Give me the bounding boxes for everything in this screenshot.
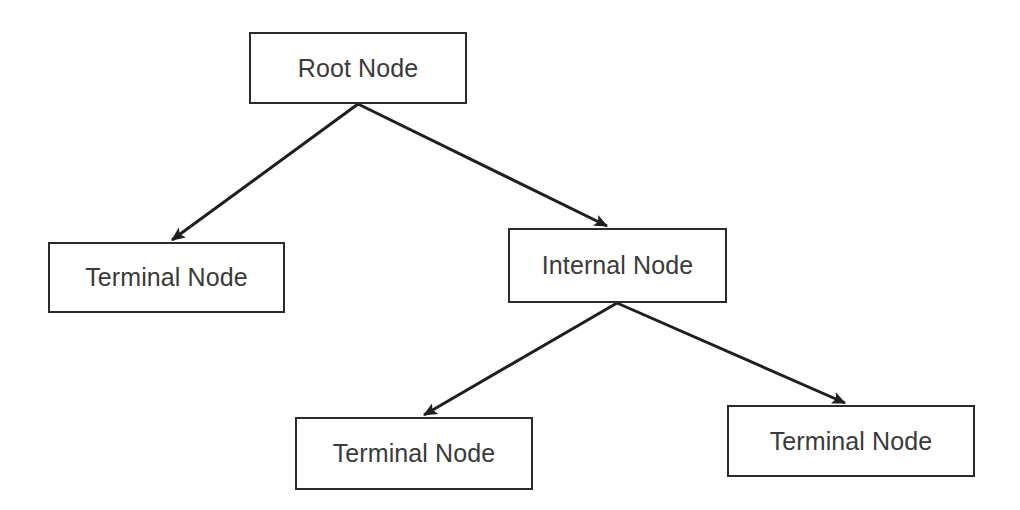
edge-internal-to-terminal-3 [617, 303, 845, 403]
node-terminal-2[interactable]: Terminal Node [295, 417, 533, 490]
tree-diagram-canvas: Root Node Terminal Node Internal Node Te… [0, 0, 1020, 510]
edge-internal-to-terminal-2 [424, 303, 617, 415]
node-root[interactable]: Root Node [249, 32, 467, 104]
node-root-label: Root Node [298, 56, 418, 81]
node-terminal-3[interactable]: Terminal Node [727, 405, 975, 477]
edge-root-to-terminal-1 [172, 104, 358, 240]
node-internal-label: Internal Node [542, 253, 693, 278]
node-internal[interactable]: Internal Node [508, 228, 727, 303]
node-terminal-3-label: Terminal Node [770, 429, 932, 454]
edge-root-to-internal [358, 104, 607, 226]
node-terminal-2-label: Terminal Node [333, 441, 495, 466]
node-terminal-1-label: Terminal Node [85, 265, 247, 290]
node-terminal-1[interactable]: Terminal Node [48, 242, 285, 313]
